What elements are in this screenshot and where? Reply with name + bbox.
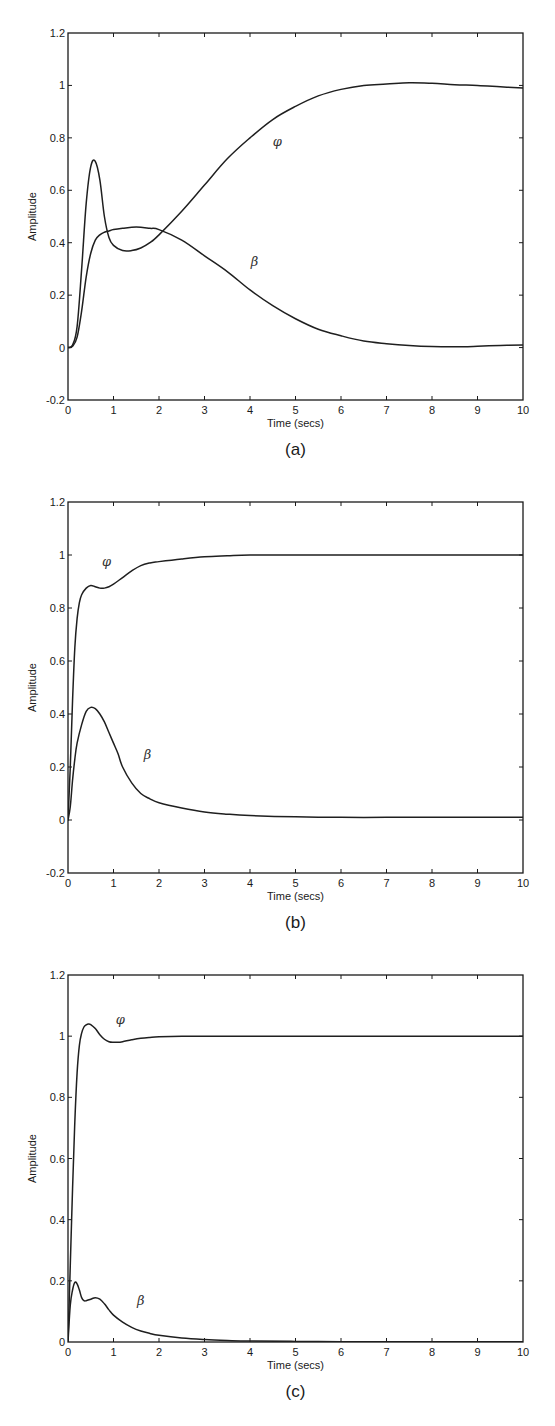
x-tick-label: 6 [338, 1346, 344, 1358]
x-tick-label: 2 [156, 1346, 162, 1358]
y-tick-label: 0.2 [50, 289, 65, 301]
x-tick-label: 2 [156, 877, 162, 889]
x-tick-label: 9 [474, 877, 480, 889]
x-tick-label: 1 [110, 1346, 116, 1358]
figure-a: 012345678910-0.200.20.40.60.811.2Time (s… [0, 0, 555, 470]
x-tick-label: 5 [292, 877, 298, 889]
x-tick-label: 10 [517, 404, 529, 416]
y-tick-label: 0.6 [50, 1153, 65, 1165]
x-tick-label: 3 [201, 1346, 207, 1358]
y-tick-label: -0.2 [46, 394, 65, 406]
x-tick-label: 6 [338, 404, 344, 416]
y-tick-label: 0.2 [50, 1275, 65, 1287]
y-axis-label: Amplitude [26, 1134, 38, 1183]
x-tick-label: 2 [156, 404, 162, 416]
y-tick-label: 0 [59, 814, 65, 826]
figure-c: 01234567891000.20.40.60.811.2Time (secs)… [0, 945, 555, 1426]
x-tick-label: 3 [201, 404, 207, 416]
y-tick-label: 0.2 [50, 761, 65, 773]
chart-b: 012345678910-0.200.20.40.60.811.2Time (s… [0, 470, 555, 945]
y-tick-label: 1.2 [50, 496, 65, 508]
phi-label: φ [102, 554, 112, 569]
chart-a: 012345678910-0.200.20.40.60.811.2Time (s… [0, 0, 555, 470]
x-tick-label: 4 [247, 877, 253, 889]
chart-c: 01234567891000.20.40.60.811.2Time (secs)… [0, 945, 555, 1426]
y-axis: -0.200.20.40.60.811.2 [46, 496, 523, 879]
x-axis: 012345678910 [65, 33, 529, 416]
x-tick-label: 4 [247, 1346, 253, 1358]
y-tick-label: 1 [59, 79, 65, 91]
beta-label: β [250, 254, 259, 269]
x-tick-label: 10 [517, 1346, 529, 1358]
x-tick-label: 0 [65, 404, 71, 416]
x-axis: 012345678910 [65, 975, 529, 1358]
phi-curve [68, 83, 523, 348]
beta-label: β [143, 747, 152, 762]
figure-caption: (c) [286, 1382, 306, 1401]
x-tick-label: 0 [65, 877, 71, 889]
figure-b: 012345678910-0.200.20.40.60.811.2Time (s… [0, 470, 555, 945]
plot-frame [68, 975, 523, 1342]
y-tick-label: 1 [59, 549, 65, 561]
x-tick-label: 7 [383, 877, 389, 889]
x-tick-label: 7 [383, 1346, 389, 1358]
plot-frame [68, 33, 523, 400]
x-axis-label: Time (secs) [267, 417, 324, 429]
figure-caption: (b) [285, 913, 306, 932]
x-tick-label: 4 [247, 404, 253, 416]
y-tick-label: 1 [59, 1030, 65, 1042]
beta-curve [68, 227, 523, 348]
beta-label: β [136, 1293, 145, 1308]
x-tick-label: 1 [110, 404, 116, 416]
x-axis: 012345678910 [65, 502, 529, 889]
y-tick-label: 0.4 [50, 237, 65, 249]
y-tick-label: 1.2 [50, 27, 65, 39]
y-tick-label: 0.6 [50, 655, 65, 667]
x-tick-label: 5 [292, 1346, 298, 1358]
x-tick-label: 1 [110, 877, 116, 889]
phi-label: φ [273, 134, 283, 149]
x-tick-label: 9 [474, 404, 480, 416]
x-tick-label: 5 [292, 404, 298, 416]
x-axis-label: Time (secs) [267, 890, 324, 902]
y-axis-label: Amplitude [26, 192, 38, 241]
y-tick-label: 0.4 [50, 1214, 65, 1226]
x-tick-label: 8 [429, 404, 435, 416]
x-tick-label: 7 [383, 404, 389, 416]
x-axis-label: Time (secs) [267, 1359, 324, 1371]
x-tick-label: 0 [65, 1346, 71, 1358]
x-tick-label: 6 [338, 877, 344, 889]
beta-curve [68, 707, 523, 820]
y-tick-label: 0.8 [50, 1091, 65, 1103]
y-tick-label: 0.6 [50, 184, 65, 196]
y-tick-label: 1.2 [50, 969, 65, 981]
beta-curve [68, 1282, 523, 1342]
y-tick-label: -0.2 [46, 867, 65, 879]
y-axis-label: Amplitude [26, 663, 38, 712]
x-tick-label: 9 [474, 1346, 480, 1358]
figure-caption: (a) [285, 440, 306, 459]
x-tick-label: 10 [517, 877, 529, 889]
x-tick-label: 8 [429, 1346, 435, 1358]
phi-label: φ [116, 1012, 126, 1027]
phi-curve [68, 555, 523, 820]
y-tick-label: 0 [59, 342, 65, 354]
y-tick-label: 0.8 [50, 132, 65, 144]
y-tick-label: 0.8 [50, 602, 65, 614]
x-tick-label: 3 [201, 877, 207, 889]
x-tick-label: 8 [429, 877, 435, 889]
y-tick-label: 0.4 [50, 708, 65, 720]
y-tick-label: 0 [59, 1336, 65, 1348]
